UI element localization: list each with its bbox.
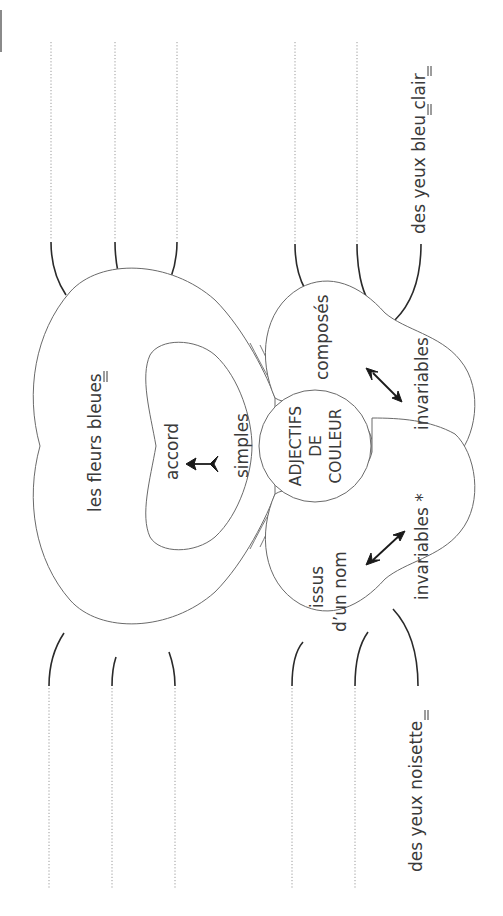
answer-lines-right-top — [295, 42, 357, 242]
answer-lines-left-bottom — [49, 688, 175, 888]
leaders-left-bottom — [49, 633, 175, 686]
rule-invariables-star: invariables * — [412, 493, 432, 600]
rule-invariables: invariables — [412, 337, 432, 430]
label-composes: composés — [312, 294, 332, 380]
label-issus: issus — [307, 566, 327, 608]
label-dun-nom: d’un nom — [330, 551, 350, 632]
center-line-2: DE — [307, 435, 325, 457]
example-issus-nom: des yeux noisette — [406, 721, 426, 872]
label-simples: simples — [232, 413, 252, 478]
example-composes: des yeux bleu clair — [409, 73, 429, 234]
leaders-right-bottom — [292, 609, 418, 686]
example-simples: les fleurs bleues — [85, 373, 105, 512]
rule-accord: accord — [162, 423, 182, 480]
center-line-1: ADJECTIFS — [287, 406, 305, 486]
mind-map-diagram: ADJECTIFS DE COULEUR les fleurs bleues a… — [0, 0, 503, 916]
answer-lines-right-bottom — [292, 688, 355, 888]
answer-lines-left-top — [51, 42, 177, 240]
center-line-3: COULEUR — [327, 408, 345, 483]
